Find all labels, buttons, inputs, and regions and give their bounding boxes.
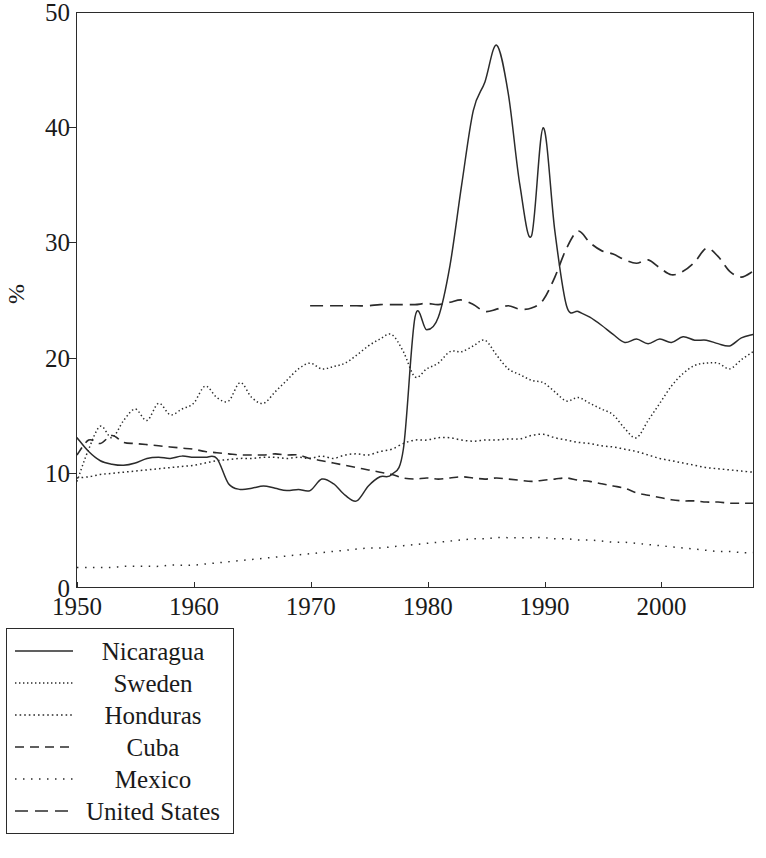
legend-sample-cuba <box>7 731 81 763</box>
series-line-nicaragua <box>77 45 753 501</box>
legend-item-mexico[interactable]: Mexico <box>7 763 233 795</box>
series-line-sweden <box>77 334 753 481</box>
x-tick-mark-1980 <box>428 582 429 588</box>
x-tick-label-1980: 1980 <box>403 594 453 619</box>
series-line-mexico <box>77 538 753 568</box>
legend-sample-nicaragua <box>7 635 81 667</box>
legend: NicaraguaSwedenHondurasCubaMexicoUnited … <box>6 628 234 834</box>
x-tick-mark-2000 <box>661 582 662 588</box>
legend-label-mexico: Mexico <box>81 767 233 792</box>
legend-item-cuba[interactable]: Cuba <box>7 731 233 763</box>
y-tick-label-10: 10 <box>24 460 70 485</box>
x-tick-mark-1960 <box>194 582 195 588</box>
x-tick-mark-1990 <box>545 582 546 588</box>
plot-area <box>76 12 754 588</box>
x-tick-label-2000: 2000 <box>636 594 686 619</box>
x-tick-mark-1950 <box>77 582 78 588</box>
x-tick-label-1990: 1990 <box>520 594 570 619</box>
y-tick-mark-20 <box>68 358 76 359</box>
legend-item-honduras[interactable]: Honduras <box>7 699 233 731</box>
x-tick-label-1960: 1960 <box>169 594 219 619</box>
legend-sample-mexico <box>7 763 81 795</box>
series-lines <box>77 13 753 587</box>
x-tick-label-1950: 1950 <box>52 594 102 619</box>
x-tick-label-1970: 1970 <box>286 594 336 619</box>
legend-item-united-states[interactable]: United States <box>7 795 233 827</box>
legend-label-nicaragua: Nicaragua <box>81 639 233 664</box>
y-tick-label-20: 20 <box>24 345 70 370</box>
y-tick-label-50: 50 <box>24 0 70 25</box>
y-tick-mark-10 <box>68 473 76 474</box>
legend-item-nicaragua[interactable]: Nicaragua <box>7 635 233 667</box>
legend-sample-united-states <box>7 795 81 827</box>
legend-label-sweden: Sweden <box>81 671 233 696</box>
legend-item-sweden[interactable]: Sweden <box>7 667 233 699</box>
series-line-united-states <box>310 231 753 312</box>
y-tick-mark-30 <box>68 242 76 243</box>
y-tick-label-30: 30 <box>24 230 70 255</box>
legend-label-united-states: United States <box>81 799 233 824</box>
y-tick-label-40: 40 <box>24 115 70 140</box>
chart-root: % 01020304050 195019601970198019902000 N… <box>0 0 766 858</box>
legend-sample-honduras <box>7 699 81 731</box>
y-tick-mark-40 <box>68 127 76 128</box>
legend-label-cuba: Cuba <box>81 735 233 760</box>
legend-label-honduras: Honduras <box>81 703 233 728</box>
x-axis-ticks: 195019601970198019902000 <box>76 588 756 628</box>
legend-sample-sweden <box>7 667 81 699</box>
x-tick-mark-1970 <box>311 582 312 588</box>
y-axis-ticks: 01020304050 <box>0 0 70 588</box>
series-line-cuba <box>77 435 753 503</box>
